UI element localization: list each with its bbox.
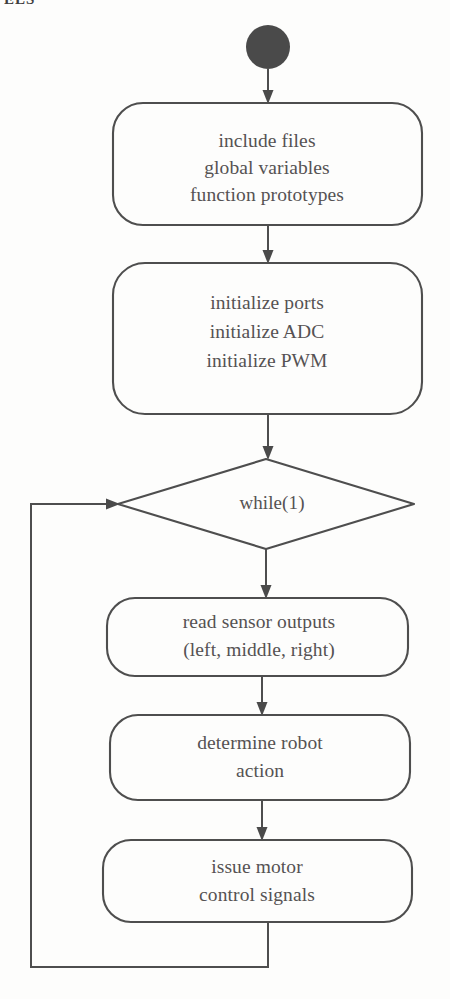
node-issue-motor-line-2: control signals — [199, 884, 315, 905]
start-terminal-node[interactable] — [246, 25, 290, 69]
node-initialize-peripherals[interactable]: initialize ports initialize ADC initiali… — [113, 263, 422, 414]
node-issue-motor-control-signals[interactable]: issue motor control signals — [103, 840, 412, 922]
node-determine-action-line-1: determine robot — [197, 732, 323, 753]
node-read-sensors-line-2: (left, middle, right) — [183, 639, 335, 661]
node-determine-action-line-2: action — [236, 760, 284, 781]
node-initialize-line-2: initialize ADC — [210, 321, 325, 342]
edge-start-to-include-files — [263, 69, 274, 104]
node-initialize-line-3: initialize PWM — [206, 350, 327, 371]
node-include-files-line-2: global variables — [204, 157, 330, 178]
edge-while-loop-to-read-sensors — [261, 549, 272, 599]
node-include-files-line-3: function prototypes — [190, 184, 344, 205]
node-include-files[interactable]: include files global variables function … — [113, 103, 422, 225]
flowchart-page: ELS include files global variables funct… — [0, 0, 450, 999]
node-issue-motor-line-1: issue motor — [211, 856, 303, 877]
edge-determine-action-to-issue-motor — [257, 800, 268, 841]
node-read-sensor-outputs[interactable]: read sensor outputs (left, middle, right… — [107, 598, 408, 676]
node-read-sensors-line-1: read sensor outputs — [183, 611, 335, 632]
node-while-loop-condition[interactable]: while(1) — [118, 459, 414, 549]
node-while-loop-label: while(1) — [239, 492, 304, 514]
edge-include-files-to-initialize — [263, 225, 274, 264]
edge-read-sensors-to-determine-action — [257, 676, 268, 716]
node-determine-robot-action[interactable]: determine robot action — [110, 715, 410, 800]
flowchart-diagram: include files global variables function … — [0, 0, 450, 999]
edge-initialize-to-while-loop — [263, 414, 274, 460]
node-include-files-line-1: include files — [218, 130, 315, 151]
node-initialize-line-1: initialize ports — [210, 292, 324, 313]
